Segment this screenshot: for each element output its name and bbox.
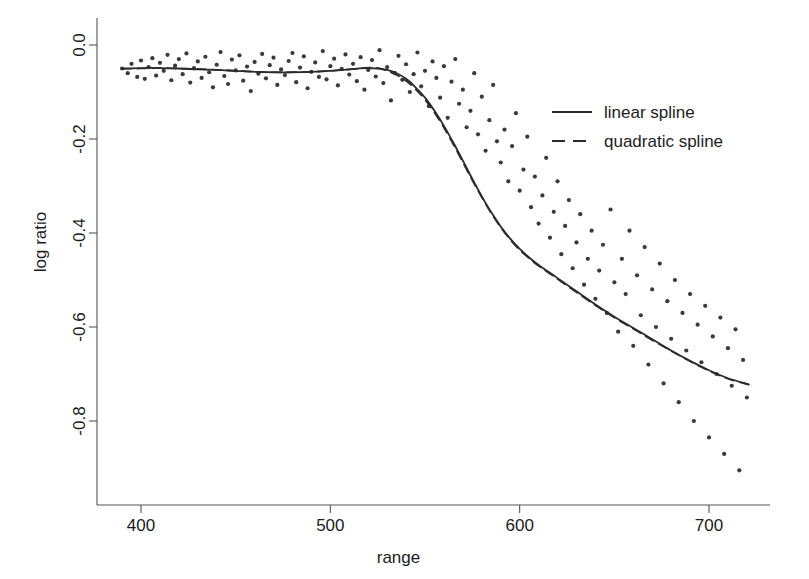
scatter-point [461, 88, 465, 92]
scatter-point [552, 210, 556, 214]
scatter-point [271, 56, 275, 60]
scatter-point [548, 236, 552, 240]
scatter-point [404, 62, 408, 66]
scatter-point [377, 48, 381, 52]
scatter-point [241, 79, 245, 83]
scatter-point [306, 86, 310, 90]
scatter-point [680, 311, 684, 315]
legend: linear splinequadratic spline [552, 103, 723, 151]
scatter-point [730, 384, 734, 388]
y-axis-tick-label: -0.6 [70, 312, 89, 341]
scatter-point [129, 62, 133, 66]
x-axis-tick-label: 700 [695, 516, 723, 535]
scatter-point [457, 102, 461, 106]
scatter-point [135, 75, 139, 79]
scatter-point [446, 116, 450, 120]
scatter-plot-figure: 0.0-0.2-0.4-0.6-0.8400500600700rangelog … [0, 0, 809, 579]
scatter-point [162, 69, 166, 73]
scatter-point [658, 261, 662, 265]
scatter-point [726, 346, 730, 350]
legend-label-quadratic-spline: quadratic spline [604, 132, 723, 151]
scatter-point [586, 257, 590, 261]
scatter-point [434, 76, 438, 80]
scatter-point [283, 73, 287, 77]
scatter-point [661, 381, 665, 385]
scatter-point [483, 149, 487, 153]
scatter-point [601, 243, 605, 247]
scatter-point [169, 78, 173, 82]
scatter-point [669, 337, 673, 341]
scatter-point [412, 72, 416, 76]
scatter-point [260, 52, 264, 56]
scatter-point [684, 348, 688, 352]
scatter-point [578, 212, 582, 216]
scatter-point [722, 452, 726, 456]
y-axis-tick-label: -0.8 [70, 406, 89, 435]
scatter-point [343, 52, 347, 56]
scatter-point [336, 83, 340, 87]
scatter-point [525, 135, 529, 139]
scatter-point [465, 125, 469, 129]
scatter-point [268, 63, 272, 67]
scatter-point [502, 128, 506, 132]
scatter-point [612, 280, 616, 284]
scatter-point [279, 67, 283, 71]
scatter-point [696, 323, 700, 327]
scatter-point [249, 89, 253, 93]
scatter-point [347, 73, 351, 77]
scatter-point [381, 81, 385, 85]
scatter-point [419, 84, 423, 88]
scatter-point [362, 88, 366, 92]
scatter-point [582, 283, 586, 287]
scatter-point [370, 58, 374, 62]
scatter-point [203, 55, 207, 59]
scatter-point [264, 76, 268, 80]
plot-canvas: 0.0-0.2-0.4-0.6-0.8400500600700rangelog … [0, 0, 809, 579]
scatter-point [699, 360, 703, 364]
scatter-point [563, 224, 567, 228]
scatter-point [165, 53, 169, 57]
scatter-point [359, 55, 363, 59]
scatter-point [430, 59, 434, 63]
scatter-point [188, 81, 192, 85]
scatter-point [537, 222, 541, 226]
scatter-point [415, 50, 419, 54]
x-axis-title: range [377, 548, 420, 567]
scatter-point [646, 363, 650, 367]
scatter-point [590, 229, 594, 233]
scatter-point [355, 79, 359, 83]
scatter-point [741, 358, 745, 362]
scatter-point [688, 292, 692, 296]
scatter-point [332, 57, 336, 61]
scatter-point [230, 57, 234, 61]
scatter-point [181, 72, 185, 76]
scatter-point [711, 334, 715, 338]
x-axis-tick-label: 600 [505, 516, 533, 535]
scatter-point [510, 144, 514, 148]
scatter-point [321, 49, 325, 53]
scatter-point [351, 62, 355, 66]
scatter-point [328, 64, 332, 68]
scatter-point [143, 77, 147, 81]
x-axis-tick-label: 400 [127, 516, 155, 535]
scatter-point [616, 330, 620, 334]
scatter-point [389, 98, 393, 102]
scatter-point [624, 292, 628, 296]
scatter-point [518, 189, 522, 193]
scatter-point [567, 198, 571, 202]
scatter-point [222, 74, 226, 78]
scatter-point [150, 56, 154, 60]
scatter-point [253, 60, 257, 64]
scatter-point [529, 205, 533, 209]
legend-label-linear-spline: linear spline [604, 103, 695, 122]
scatter-point [126, 71, 130, 75]
scatter-point [438, 96, 442, 100]
scatter-point [199, 76, 203, 80]
scatter-point [673, 278, 677, 282]
scatter-point [215, 63, 219, 67]
scatter-point [514, 111, 518, 115]
scatter-point [245, 65, 249, 69]
scatter-point [218, 50, 222, 54]
scatter-point [499, 160, 503, 164]
scatter-point [442, 64, 446, 68]
